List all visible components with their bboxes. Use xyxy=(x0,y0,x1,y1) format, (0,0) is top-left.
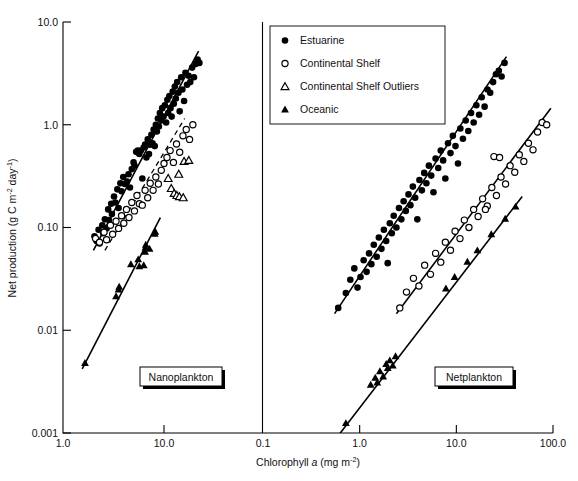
data-point-filled-circle xyxy=(351,265,358,272)
data-point-filled-triangle xyxy=(367,381,375,388)
data-point-open-circle xyxy=(521,158,527,164)
figure-root: 10.01.00.100.010.001 1.010.00.11.010.010… xyxy=(0,0,578,481)
data-point-filled-triangle xyxy=(512,203,520,210)
data-point-filled-circle xyxy=(450,133,457,140)
data-point-filled-circle xyxy=(146,151,153,158)
data-point-filled-circle xyxy=(151,143,158,150)
data-point-open-circle xyxy=(475,213,481,219)
data-point-filled-circle xyxy=(419,187,426,194)
data-point-filled-triangle xyxy=(392,352,400,359)
data-point-filled-circle xyxy=(498,73,505,80)
x-axis-ticks: 1.010.00.11.010.0100.0 xyxy=(56,425,567,449)
data-point-filled-circle xyxy=(347,276,354,283)
data-point-filled-circle xyxy=(435,165,442,172)
data-point-open-circle xyxy=(427,271,433,277)
data-point-filled-circle xyxy=(421,170,428,177)
data-point-open-circle xyxy=(101,229,107,235)
data-point-filled-circle xyxy=(414,216,421,223)
data-point-filled-circle xyxy=(360,257,367,264)
data-point-filled-circle xyxy=(405,191,412,198)
data-point-filled-circle xyxy=(139,175,146,182)
y-tick-label: 0.001 xyxy=(32,427,58,439)
data-point-filled-circle xyxy=(462,117,469,124)
data-point-filled-circle xyxy=(468,110,475,117)
data-point-filled-circle xyxy=(373,253,380,260)
x-tick-label: 100.0 xyxy=(540,437,566,449)
data-point-filled-circle xyxy=(124,178,131,185)
data-point-filled-circle xyxy=(354,284,361,291)
data-point-open-circle xyxy=(186,136,192,142)
data-point-filled-triangle xyxy=(127,260,135,267)
data-point-filled-circle xyxy=(481,103,488,110)
data-point-open-circle xyxy=(442,239,448,245)
left-panel-data xyxy=(81,51,203,369)
y-axis-ticks: 10.01.00.100.010.001 xyxy=(32,16,71,439)
data-point-filled-circle xyxy=(196,60,203,67)
data-point-filled-circle xyxy=(109,211,116,218)
data-point-open-circle xyxy=(118,213,124,219)
x-tick-label: 10.0 xyxy=(154,437,175,449)
panel-label-nanoplankton-text: Nanoplankton xyxy=(149,371,214,383)
data-point-open-circle xyxy=(142,187,148,193)
data-point-open-circle xyxy=(489,184,495,190)
legend-item-label: Oceanic xyxy=(300,103,339,115)
data-point-open-circle xyxy=(131,208,137,214)
data-point-filled-circle xyxy=(430,189,437,196)
data-point-filled-triangle xyxy=(371,374,379,381)
data-point-open-circle xyxy=(183,126,189,132)
data-point-filled-circle xyxy=(410,183,417,190)
data-point-filled-circle xyxy=(191,74,198,81)
data-point-filled-circle xyxy=(490,79,497,86)
data-point-open-circle xyxy=(121,220,127,226)
data-point-filled-circle xyxy=(118,188,125,195)
data-point-filled-circle xyxy=(115,205,122,212)
data-point-open-circle xyxy=(461,217,467,223)
data-point-open-circle xyxy=(534,129,540,135)
data-point-filled-circle xyxy=(402,208,409,215)
data-point-open-circle xyxy=(432,250,438,256)
data-point-filled-circle xyxy=(282,37,289,44)
legend-item-label: Continental Shelf Outliers xyxy=(300,80,419,92)
y-axis-title-mid: day xyxy=(6,168,18,189)
data-point-open-circle xyxy=(115,225,121,231)
regression-line xyxy=(340,197,523,434)
data-point-open-circle xyxy=(530,147,536,153)
data-point-filled-circle xyxy=(111,193,118,200)
data-point-filled-circle xyxy=(168,113,175,120)
svg-text:Net production (g C m-2 day-1): Net production (g C m-2 day-1) xyxy=(5,159,18,298)
data-point-filled-circle xyxy=(173,95,180,102)
data-point-filled-circle xyxy=(473,102,480,109)
data-point-open-circle xyxy=(502,181,508,187)
data-point-open-circle xyxy=(164,154,170,160)
y-axis-title: Net production (g C m-2 day-1) xyxy=(5,159,18,298)
y-axis-title-end: ) xyxy=(6,159,18,163)
series-estuarine xyxy=(91,56,202,246)
legend: EstuarineContinental ShelfContinental Sh… xyxy=(270,26,445,124)
data-point-filled-circle xyxy=(383,238,390,245)
x-axis-title: Chlorophyll a (mg m-2) xyxy=(256,455,360,468)
data-point-filled-circle xyxy=(478,94,485,101)
data-point-filled-circle xyxy=(163,119,170,126)
data-point-open-circle xyxy=(113,218,119,224)
data-point-filled-circle xyxy=(440,157,447,164)
data-point-open-circle xyxy=(282,60,288,66)
y-tick-label: 10.0 xyxy=(38,16,59,28)
x-axis-title-post: (mg m xyxy=(317,456,350,468)
x-tick-label: 1.0 xyxy=(56,437,71,449)
data-point-open-circle xyxy=(173,141,179,147)
y-axis-title-main: Net production (g C m xyxy=(6,194,18,297)
scatter-plot-figure: 10.01.00.100.010.001 1.010.00.11.010.010… xyxy=(0,0,578,481)
data-point-filled-circle xyxy=(501,60,508,67)
data-point-open-circle xyxy=(507,163,513,169)
data-point-filled-circle xyxy=(376,234,383,241)
legend-item-label: Continental Shelf xyxy=(300,57,380,69)
data-point-filled-triangle xyxy=(112,292,120,299)
data-point-open-circle xyxy=(180,133,186,139)
data-point-open-circle xyxy=(145,195,151,201)
data-point-open-circle xyxy=(403,289,409,295)
data-point-filled-circle xyxy=(384,260,391,267)
data-point-open-circle xyxy=(177,149,183,155)
panel-label-netplankton-text: Netplankton xyxy=(446,371,502,383)
data-point-open-circle xyxy=(512,169,518,175)
x-tick-label: 1.0 xyxy=(352,437,367,449)
